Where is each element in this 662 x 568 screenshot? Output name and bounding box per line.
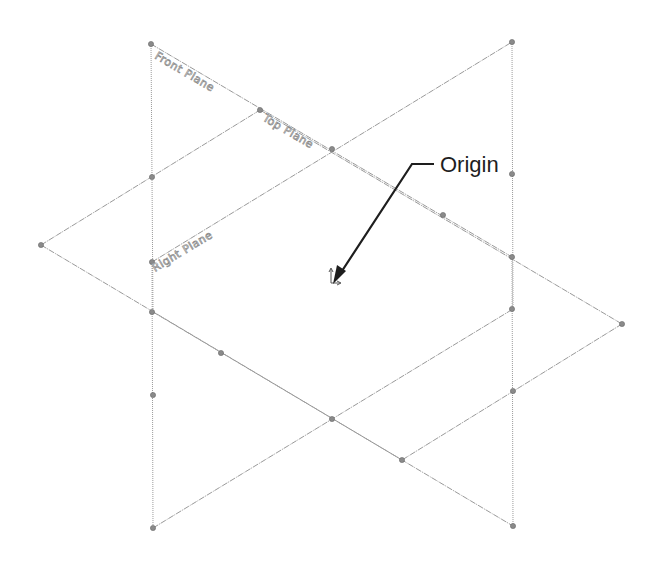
leader-line [340, 164, 434, 274]
handle-dot[interactable] [38, 242, 43, 247]
handle-dot[interactable] [150, 525, 155, 530]
origin-callout: Origin [333, 152, 499, 284]
top-plane-label[interactable]: Top Plane [260, 111, 316, 152]
origin-callout-label: Origin [440, 152, 499, 177]
planes-drawing: Front Plane Top Plane Right Plane Origin [0, 0, 662, 568]
front-plane[interactable] [151, 44, 513, 526]
handle-dot[interactable] [440, 212, 445, 217]
handle-dot[interactable] [329, 146, 334, 151]
handle-dot[interactable] [509, 254, 514, 259]
handle-dot[interactable] [218, 350, 223, 355]
right-plane-label[interactable]: Right Plane [150, 228, 215, 274]
handle-dot[interactable] [399, 457, 404, 462]
handle-dot[interactable] [619, 321, 624, 326]
plane-handles [38, 39, 624, 530]
handle-dot[interactable] [148, 41, 153, 46]
handle-dot[interactable] [510, 388, 515, 393]
handle-dot[interactable] [149, 174, 154, 179]
handle-dot[interactable] [509, 39, 514, 44]
handle-dot[interactable] [509, 306, 514, 311]
handle-dot[interactable] [510, 523, 515, 528]
front-plane-label[interactable]: Front Plane [152, 49, 216, 94]
cad-viewport: Front Plane Top Plane Right Plane Origin [0, 0, 662, 568]
top-plane[interactable] [41, 110, 622, 460]
handle-dot[interactable] [329, 416, 334, 421]
handle-dot[interactable] [257, 107, 262, 112]
handle-dot[interactable] [149, 309, 154, 314]
handle-dot[interactable] [150, 392, 155, 397]
handle-dot[interactable] [509, 171, 514, 176]
right-plane[interactable] [152, 42, 513, 528]
